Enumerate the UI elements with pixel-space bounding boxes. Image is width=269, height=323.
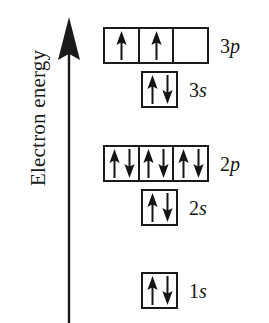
orbital-subshell-letter: p [230,153,240,175]
spin-group [143,73,176,106]
orbital-box [141,272,178,309]
orbital-row-3s: 3s [141,71,207,108]
spin-up-arrow-icon [115,30,128,61]
spin-down-arrow-icon [161,74,174,105]
orbital-row-3p: 3p [103,27,240,64]
spin-down-arrow-icon [192,148,205,179]
orbital-label-3p: 3p [220,36,240,56]
spin-up-arrow-icon [108,148,121,179]
orbital-principal-number: 2 [189,197,199,219]
orbital-row-2s: 2s [141,189,207,226]
spin-group [140,29,173,62]
orbital-box [172,145,209,182]
orbital-box [141,71,178,108]
orbital-label-1s: 1s [189,281,207,301]
orbital-box-empty [172,27,209,64]
spin-down-arrow-icon [157,148,170,179]
orbital-label-2p: 2p [220,154,240,174]
spin-group [174,147,207,180]
spin-down-arrow-icon [123,148,136,179]
spin-group [143,274,176,307]
spin-down-arrow-icon [161,192,174,223]
orbital-subshell-letter: s [199,280,207,302]
orbital-box [103,145,140,182]
orbital-diagram: Electron energy 3p [0,0,269,323]
spin-group [105,147,138,180]
orbital-principal-number: 2 [220,153,230,175]
orbital-boxes-3s [141,71,178,108]
orbital-principal-number: 3 [220,35,230,57]
spin-group [140,147,173,180]
orbital-boxes-2p [103,145,209,182]
orbital-box [138,27,175,64]
spin-group [105,29,138,62]
orbital-row-1s: 1s [141,272,207,309]
orbital-box [138,145,175,182]
energy-axis-label: Electron energy [26,50,51,186]
spin-up-arrow-icon [146,192,159,223]
orbital-principal-number: 3 [189,79,199,101]
orbital-boxes-1s [141,272,178,309]
spin-up-arrow-icon [142,148,155,179]
spin-up-arrow-icon [177,148,190,179]
orbital-box [103,27,140,64]
up-arrow-icon [54,14,84,323]
spin-up-arrow-icon [146,275,159,306]
spin-down-arrow-icon [161,275,174,306]
orbital-boxes-2s [141,189,178,226]
orbital-subshell-letter: s [199,197,207,219]
orbital-subshell-letter: p [230,35,240,57]
orbital-label-2s: 2s [189,198,207,218]
orbital-boxes-3p [103,27,209,64]
spin-group [143,191,176,224]
orbital-label-3s: 3s [189,80,207,100]
spin-up-arrow-icon [150,30,163,61]
orbital-principal-number: 1 [189,280,199,302]
orbital-box [141,189,178,226]
orbital-row-2p: 2p [103,145,240,182]
orbital-subshell-letter: s [199,79,207,101]
spin-up-arrow-icon [146,74,159,105]
